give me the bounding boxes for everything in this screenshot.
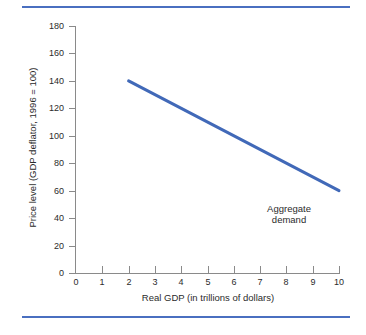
- x-axis-title: Real GDP (in trillions of dollars): [76, 292, 340, 303]
- annotation-line-1: Aggregate: [254, 203, 324, 214]
- chart-curve-layer: [0, 0, 366, 335]
- aggregate-demand-figure: 020406080100120140160180 012345678910 Ag…: [0, 0, 366, 335]
- aggregate-demand-label: Aggregate demand: [254, 203, 324, 225]
- y-axis-title: Price level (GDP deflator, 1996 = 100): [27, 28, 38, 268]
- annotation-line-2: demand: [254, 214, 324, 225]
- aggregate-demand-curve: [129, 81, 339, 191]
